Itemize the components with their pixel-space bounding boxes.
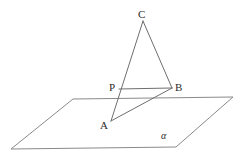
vertex-label-b: B — [175, 82, 182, 93]
segment-PB — [119, 88, 172, 89]
vertex-label-c: C — [138, 9, 145, 20]
segment-CB — [143, 21, 172, 88]
plane-label-alpha: α — [161, 131, 166, 141]
vertex-label-a: A — [100, 120, 108, 131]
geometry-canvas — [0, 0, 241, 156]
geometry-figure: C P B A α — [0, 0, 241, 156]
plane-alpha — [11, 97, 233, 149]
vertex-label-p: P — [109, 82, 115, 93]
